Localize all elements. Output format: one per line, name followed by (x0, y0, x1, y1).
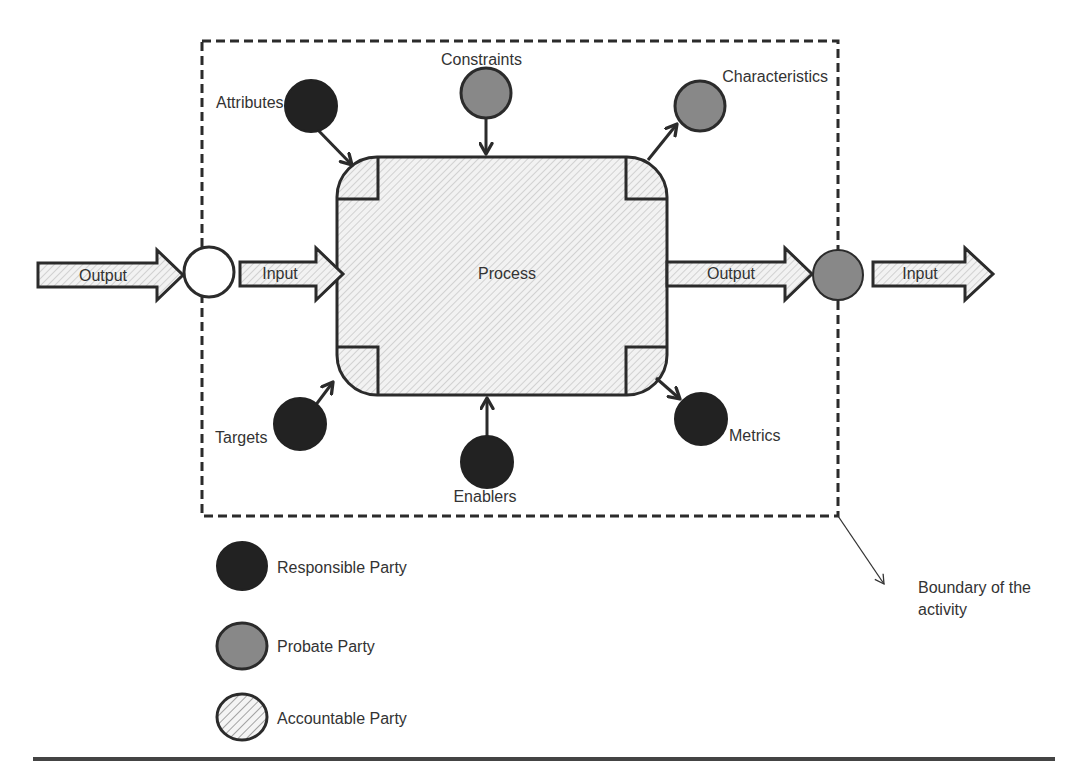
legend-item-responsible: Responsible Party (217, 542, 407, 590)
legend-label: Accountable Party (277, 710, 407, 727)
process-label: Process (478, 265, 536, 282)
bottom-divider (33, 757, 1055, 761)
right-input-label: Input (902, 265, 938, 282)
constraints-label: Constraints (441, 51, 522, 68)
targets-node[interactable]: Targets (215, 382, 333, 450)
characteristics-label: Characteristics (722, 68, 828, 85)
left-input-arrow[interactable]: Input (240, 248, 343, 300)
responsible-party-swatch (217, 542, 267, 590)
legend-item-probate: Probate Party (217, 623, 375, 669)
boundary-label-line2: activity (918, 601, 967, 618)
legend-label: Responsible Party (277, 559, 407, 576)
left-output-label: Output (79, 267, 128, 284)
left-output-arrow[interactable]: Output (38, 250, 183, 300)
accountable-party-swatch (217, 694, 267, 740)
legend-label: Probate Party (277, 638, 375, 655)
characteristics-node[interactable]: Characteristics (648, 68, 828, 160)
right-output-arrow[interactable]: Output (667, 248, 812, 300)
constraints-node[interactable]: Constraints (441, 51, 522, 154)
enablers-label: Enablers (453, 488, 516, 505)
enablers-node[interactable]: Enablers (453, 398, 516, 505)
legend-item-accountable: Accountable Party (217, 694, 407, 740)
attributes-node[interactable]: Attributes (216, 80, 352, 165)
attributes-label: Attributes (216, 94, 284, 111)
accountable-party-node-left[interactable] (184, 247, 234, 297)
boundary-label-line1: Boundary of the (918, 579, 1031, 596)
boundary-annotation: Boundary of the activity (838, 516, 1031, 618)
probate-party-swatch (217, 623, 267, 669)
targets-label: Targets (215, 429, 267, 446)
metrics-label: Metrics (729, 427, 781, 444)
legend: Responsible Party Probate Party Accounta… (217, 542, 407, 740)
metrics-node[interactable]: Metrics (656, 378, 781, 445)
process-diagram: Process Output Input Output Input Attrib… (0, 0, 1074, 778)
right-input-arrow[interactable]: Input (873, 248, 993, 300)
left-input-label: Input (262, 265, 298, 282)
right-output-label: Output (707, 265, 756, 282)
process-box[interactable]: Process (337, 157, 667, 395)
probate-party-node-right[interactable] (813, 250, 863, 300)
